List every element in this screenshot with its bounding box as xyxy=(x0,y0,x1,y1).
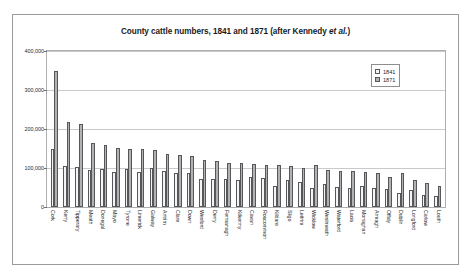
bar-1871 xyxy=(67,122,71,207)
bar-1871 xyxy=(265,165,269,207)
x-axis-labels: CorkKerryTipperaryMeathDonegalMayoTyrone… xyxy=(46,209,446,263)
x-axis-tick-label: Clare xyxy=(175,210,181,222)
bar-1871 xyxy=(215,161,219,207)
x-axis-label-cell: Mayo xyxy=(109,209,121,263)
x-axis-label-cell: Sligo xyxy=(283,209,295,263)
x-axis-tick-label: Offaly xyxy=(386,210,392,223)
x-axis-tick-label: Sligo xyxy=(287,210,293,221)
x-axis-label-cell: Meath xyxy=(84,209,96,263)
x-axis-label-cell: Cavan xyxy=(246,209,258,263)
bar-1871 xyxy=(425,183,429,207)
x-axis-tick-label: Leitrim xyxy=(299,210,305,225)
bar-group xyxy=(320,51,332,207)
bar-group xyxy=(159,51,171,207)
x-axis-label-cell: Limerick xyxy=(134,209,146,263)
bar-group xyxy=(172,51,184,207)
chart-legend: 1841 1871 xyxy=(371,64,400,87)
x-axis-label-cell: Cork xyxy=(47,209,59,263)
x-axis-tick-label: Roscommon xyxy=(262,210,268,239)
x-axis-label-cell: Longford xyxy=(408,209,420,263)
x-axis-tick-label: Tipperary xyxy=(75,210,81,231)
x-axis-tick-label: Waterford xyxy=(336,210,342,232)
bar-1871 xyxy=(314,165,318,207)
bar-group xyxy=(147,51,159,207)
bar-group xyxy=(283,51,295,207)
x-axis-tick-label: Carlow xyxy=(423,210,429,226)
bar-1871 xyxy=(277,165,281,207)
x-axis-tick-label: Cavan xyxy=(249,210,255,225)
x-axis-label-cell: Kildare xyxy=(271,209,283,263)
bar-1871 xyxy=(438,186,442,207)
chart-title-tail: ) xyxy=(347,27,350,36)
x-axis-tick-label: Kildare xyxy=(274,210,280,226)
bar-1871 xyxy=(364,172,368,207)
x-axis-tick-label: Donegal xyxy=(100,210,106,229)
bar-group xyxy=(258,51,270,207)
x-axis-tick-label: Kerry xyxy=(63,210,69,222)
bar-1871 xyxy=(252,164,256,207)
x-axis-label-cell: Westmeath xyxy=(321,209,333,263)
bar-1871 xyxy=(227,163,231,207)
x-axis-tick-label: Antrim xyxy=(162,210,168,225)
bar-group xyxy=(432,51,444,207)
bar-1871 xyxy=(153,150,157,207)
x-axis-label-cell: Wexford xyxy=(196,209,208,263)
x-axis-label-cell: Wicklow xyxy=(308,209,320,263)
y-axis-tick-label: 200,000 xyxy=(25,126,45,132)
y-axis-tick-label: 300,000 xyxy=(25,87,45,93)
x-axis-tick-label: Meath xyxy=(88,210,94,224)
legend-item-1871: 1871 xyxy=(375,76,395,84)
bar-1871 xyxy=(203,160,207,207)
y-axis-tick-mark xyxy=(44,207,47,208)
x-axis-tick-label: Westmeath xyxy=(324,210,330,236)
x-axis-label-cell: Fermanagh xyxy=(221,209,233,263)
x-axis-label-cell: Galway xyxy=(147,209,159,263)
bar-group xyxy=(184,51,196,207)
chart-title-main: County cattle numbers, 1841 and 1871 (af… xyxy=(121,27,329,36)
bar-1871 xyxy=(178,155,182,207)
bar-group xyxy=(221,51,233,207)
x-axis-label-cell: Monaghan xyxy=(358,209,370,263)
bar-1871 xyxy=(339,171,343,207)
x-axis-label-cell: Louth xyxy=(433,209,445,263)
y-axis-tick-label: 100,000 xyxy=(25,165,45,171)
chart-title-italic: et al. xyxy=(329,27,347,36)
bar-1871 xyxy=(289,166,293,207)
x-axis-label-cell: Donegal xyxy=(97,209,109,263)
legend-label-1871: 1871 xyxy=(383,77,395,83)
legend-item-1841: 1841 xyxy=(375,68,395,76)
x-axis-label-cell: Leitrim xyxy=(296,209,308,263)
bar-1871 xyxy=(376,173,380,207)
x-axis-tick-label: Longford xyxy=(411,210,417,230)
bar-group xyxy=(357,51,369,207)
x-axis-tick-label: Tyrone xyxy=(125,210,131,226)
x-axis-tick-label: Galway xyxy=(150,210,156,227)
x-axis-label-cell: Clare xyxy=(171,209,183,263)
bar-group xyxy=(110,51,122,207)
chart-figure-frame: County cattle numbers, 1841 and 1871 (af… xyxy=(12,14,459,265)
bar-group xyxy=(60,51,72,207)
bar-group xyxy=(197,51,209,207)
legend-label-1841: 1841 xyxy=(383,69,395,75)
x-axis-tick-label: Dublin xyxy=(399,210,405,224)
bar-1871 xyxy=(240,163,244,207)
legend-swatch-1841 xyxy=(375,69,380,74)
x-axis-label-cell: Roscommon xyxy=(258,209,270,263)
legend-swatch-1871 xyxy=(375,77,380,82)
bar-group xyxy=(308,51,320,207)
bar-1871 xyxy=(166,154,170,207)
x-axis-tick-label: Limerick xyxy=(137,210,143,229)
x-axis-label-cell: Down xyxy=(184,209,196,263)
x-axis-label-cell: Waterford xyxy=(333,209,345,263)
x-axis-label-cell: Kilkenny xyxy=(234,209,246,263)
x-axis-tick-label: Cork xyxy=(50,210,56,221)
x-axis-tick-label: Wicklow xyxy=(312,210,318,229)
bar-1871 xyxy=(413,180,417,207)
bar-1871 xyxy=(91,143,95,207)
x-axis-tick-label: Fermanagh xyxy=(224,210,230,236)
x-axis-tick-label: Down xyxy=(187,210,193,223)
x-axis-label-cell: Tyrone xyxy=(122,209,134,263)
bar-group xyxy=(246,51,258,207)
bar-1871 xyxy=(128,149,132,207)
bar-group xyxy=(209,51,221,207)
